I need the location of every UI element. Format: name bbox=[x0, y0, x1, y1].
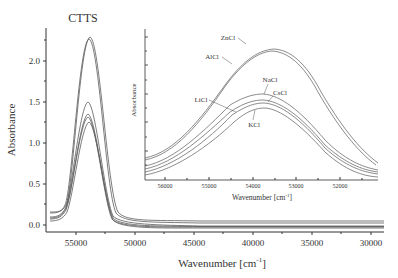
y-tick-label: 0.5 bbox=[29, 179, 41, 189]
inset-y-label: Absorbance bbox=[130, 83, 138, 116]
inset-curves bbox=[145, 49, 378, 177]
main-y-ticks: 0.0 0.5 1.0 1.5 2.0 bbox=[29, 40, 46, 230]
ctts-absorbance-chart: CTTS 0.0 0.5 1.0 1.5 2.0 bbox=[0, 0, 398, 278]
main-y-label: Absorbance bbox=[5, 104, 17, 157]
inset-x-tick-label: 52000 bbox=[333, 183, 348, 189]
label-kcl: KCl bbox=[248, 121, 260, 129]
label-cscl: CsCl bbox=[273, 89, 287, 97]
y-tick-label: 1.5 bbox=[29, 97, 41, 107]
x-tick-label: 50000 bbox=[124, 238, 147, 248]
inset-x-tick-label: 56000 bbox=[158, 183, 173, 189]
x-tick-label: 30000 bbox=[360, 238, 383, 248]
inset-x-label: Wavenumber [cm-1] bbox=[232, 193, 292, 202]
main-plot: CTTS 0.0 0.5 1.0 1.5 2.0 bbox=[5, 11, 384, 269]
y-tick-label: 1.0 bbox=[29, 138, 41, 148]
label-nacl: NaCl bbox=[263, 76, 278, 84]
label-zncl: ZnCl bbox=[221, 34, 235, 42]
inset-x-ticks: 56000 55000 54000 53000 52000 bbox=[158, 177, 363, 189]
y-tick-label: 2.0 bbox=[29, 56, 41, 66]
label-licl: LiCl bbox=[195, 96, 208, 104]
inset-y-ticks bbox=[145, 37, 148, 165]
inset-x-tick-label: 54000 bbox=[246, 183, 261, 189]
main-x-label: Wavenumber [cm-1] bbox=[178, 256, 266, 269]
x-tick-label: 40000 bbox=[242, 238, 265, 248]
inset-plot: 56000 55000 54000 53000 52000 Wavenumber… bbox=[130, 29, 378, 202]
inset-x-tick-label: 53000 bbox=[289, 183, 304, 189]
main-title: CTTS bbox=[68, 11, 97, 25]
main-curves bbox=[50, 37, 384, 228]
x-tick-label: 55000 bbox=[65, 238, 88, 248]
main-x-ticks: 55000 50000 45000 40000 35000 30000 bbox=[65, 232, 383, 248]
y-tick-label: 0.0 bbox=[29, 220, 41, 230]
x-tick-label: 35000 bbox=[301, 238, 324, 248]
label-alcl: AlCl bbox=[205, 53, 219, 61]
inset-x-tick-label: 55000 bbox=[202, 183, 217, 189]
x-tick-label: 45000 bbox=[183, 238, 206, 248]
inset-annotations: ZnCl AlCl NaCl CsCl LiCl KCl bbox=[195, 34, 287, 129]
